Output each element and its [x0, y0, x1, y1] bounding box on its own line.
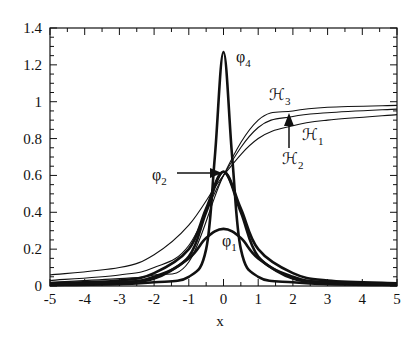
- y-tick-label: 1.2: [23, 57, 42, 73]
- annotation-phi4: φ4: [236, 48, 251, 69]
- y-tick-label: 0.6: [23, 167, 42, 183]
- curves: [50, 52, 397, 285]
- annotation-h1: ℋ1: [302, 126, 324, 147]
- y-tick-label: 0.8: [23, 131, 42, 147]
- x-tick-label: -1: [183, 291, 196, 307]
- curve-φ4: [50, 52, 397, 285]
- curve-ℋ3: [50, 105, 397, 282]
- x-tick-label: -3: [113, 291, 126, 307]
- annotation-h3: ℋ3: [269, 86, 291, 107]
- x-axis-label: x: [216, 313, 224, 329]
- y-tick-label: 0.2: [23, 241, 42, 257]
- arrow-icon-h2: [284, 113, 294, 148]
- curve-ℋ1: [50, 115, 397, 275]
- y-tick-label: 0: [35, 278, 43, 294]
- annotation-h2: ℋ2: [282, 150, 304, 171]
- x-tick-label: -4: [78, 291, 91, 307]
- x-tick-label: 3: [324, 291, 332, 307]
- x-tick-label: 4: [359, 291, 367, 307]
- line-chart: -5-4-3-2-101234500.20.40.60.811.21.4 φ4 …: [0, 0, 420, 340]
- arrow-icon-phi2: [177, 168, 222, 178]
- x-tick-label: 0: [220, 291, 228, 307]
- curve-φ2: [50, 172, 397, 283]
- x-tick-label: 5: [393, 291, 401, 307]
- annotation-phi1: φ1: [222, 232, 237, 253]
- x-tick-label: 1: [254, 291, 262, 307]
- y-tick-label: 0.4: [23, 204, 42, 220]
- x-tick-label: 2: [289, 291, 297, 307]
- annotation-phi2: φ2: [152, 166, 167, 187]
- curve-ℋ2: [50, 109, 397, 280]
- x-tick-label: -5: [44, 291, 57, 307]
- x-tick-label: -2: [148, 291, 161, 307]
- y-tick-label: 1: [35, 94, 43, 110]
- axes: -5-4-3-2-101234500.20.40.60.811.21.4: [23, 20, 401, 307]
- y-tick-label: 1.4: [23, 20, 42, 36]
- annotations: φ4 ℋ3 ℋ1 ℋ2 φ2 φ1 x: [152, 48, 324, 329]
